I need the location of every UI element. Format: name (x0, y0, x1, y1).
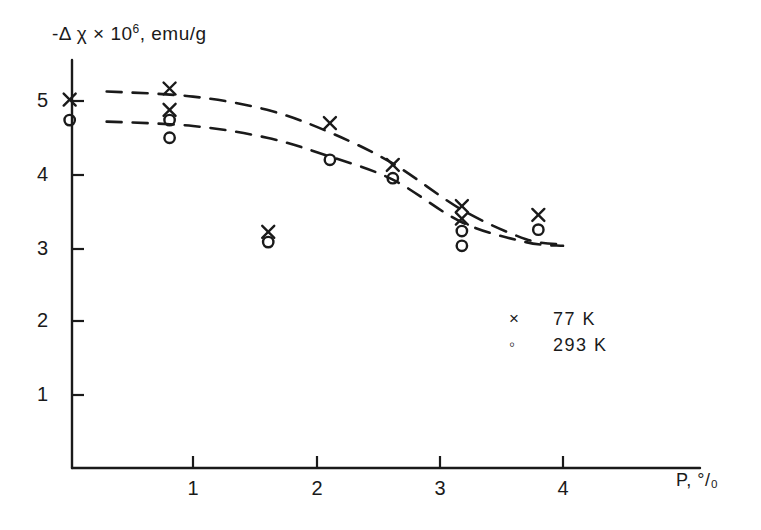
data-point-cross-77k (164, 83, 176, 95)
data-point-cross-77k (324, 117, 336, 129)
data-point-cross-77k (387, 159, 399, 171)
x-axis-ticks (193, 456, 563, 468)
y-axis-ticks (72, 101, 84, 395)
axes (72, 60, 700, 468)
data-point-circle-293k (164, 133, 174, 143)
data-point-cross-77k (64, 94, 76, 106)
chart-figure: -Δ χ × 106, emu/g P, °/₀ 5 4 3 2 1 1 2 3… (0, 0, 761, 530)
data-points (64, 83, 545, 252)
data-point-circle-293k (263, 237, 273, 247)
data-point-circle-293k (457, 226, 467, 236)
data-point-circle-293k (457, 241, 467, 251)
data-point-circle-293k (64, 115, 74, 125)
plot-canvas (0, 0, 761, 530)
data-point-circle-293k (533, 224, 543, 234)
data-point-cross-77k (532, 209, 544, 221)
data-point-circle-293k (325, 155, 335, 165)
